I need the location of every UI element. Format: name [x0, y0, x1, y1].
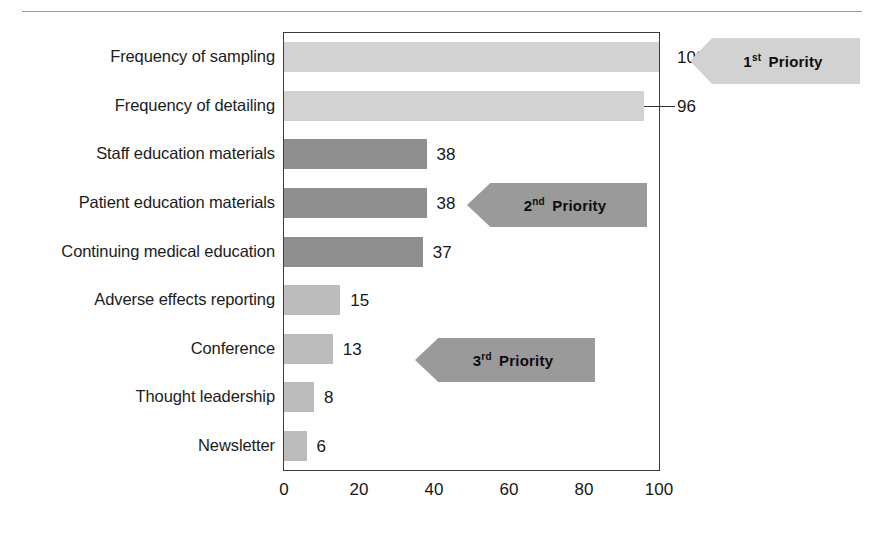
- bar: [284, 431, 307, 461]
- bar: [284, 334, 333, 364]
- priority-text: Priority: [764, 53, 822, 70]
- bar: [284, 91, 644, 121]
- priority-callout-label: 1st Priority: [727, 53, 822, 70]
- priority-text: Priority: [548, 197, 606, 214]
- priority-ordinal-suffix: nd: [532, 196, 545, 207]
- bar: [284, 285, 340, 315]
- x-axis-tick-labels: 020406080100: [0, 481, 869, 509]
- x-tick-label: 100: [645, 481, 673, 498]
- x-tick-label: 40: [425, 481, 444, 498]
- priority-callout-3: 3rd Priority: [415, 338, 595, 382]
- bar-value-label: 6: [317, 438, 326, 455]
- priority-ordinal: 1: [743, 53, 752, 70]
- bar-value-label: 96: [677, 98, 696, 115]
- priority-ordinal-suffix: st: [752, 52, 761, 63]
- priority-callout-label: 2nd Priority: [508, 197, 607, 214]
- priority-callout-1: 1st Priority: [690, 38, 860, 84]
- bar: [284, 188, 427, 218]
- bar-value-label: 38: [437, 146, 456, 163]
- bar: [284, 42, 659, 72]
- bar-value-label: 8: [324, 389, 333, 406]
- category-label: Conference: [3, 340, 275, 357]
- bar-value-label: 15: [350, 292, 369, 309]
- priority-ordinal: 2: [524, 197, 533, 214]
- x-tick-label: 80: [575, 481, 594, 498]
- category-axis-labels: Frequency of samplingFrequency of detail…: [0, 32, 275, 471]
- priority-callout-label: 3rd Priority: [457, 352, 553, 369]
- bar-value-label: 37: [433, 244, 452, 261]
- bar-value-label: 13: [343, 341, 362, 358]
- category-label: Staff education materials: [3, 145, 275, 162]
- value-leader-line: [644, 106, 675, 108]
- priority-callout-2: 2nd Priority: [467, 183, 647, 227]
- bar: [284, 139, 427, 169]
- priority-text: Priority: [495, 352, 553, 369]
- category-label: Frequency of sampling: [3, 48, 275, 65]
- category-label: Thought leadership: [3, 388, 275, 405]
- bar: [284, 382, 314, 412]
- category-label: Continuing medical education: [3, 243, 275, 260]
- x-tick-label: 20: [350, 481, 369, 498]
- x-tick-label: 0: [279, 481, 288, 498]
- figure-container: Frequency of samplingFrequency of detail…: [0, 0, 869, 534]
- bar: [284, 237, 423, 267]
- x-tick-label: 60: [500, 481, 519, 498]
- bar-series: 10096383837151386: [284, 33, 659, 470]
- category-label: Patient education materials: [3, 194, 275, 211]
- bar-value-label: 38: [437, 195, 456, 212]
- category-label: Newsletter: [3, 437, 275, 454]
- priority-ordinal-suffix: rd: [481, 351, 491, 362]
- category-label: Adverse effects reporting: [3, 291, 275, 308]
- category-label: Frequency of detailing: [3, 97, 275, 114]
- header-divider-rule: [22, 11, 862, 12]
